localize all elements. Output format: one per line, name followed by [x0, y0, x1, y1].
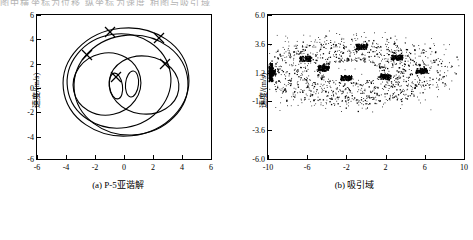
basin-point: [329, 64, 330, 65]
basin-point: [361, 88, 362, 89]
basin-point: [284, 89, 285, 90]
basin-point: [377, 87, 378, 88]
basin-point: [310, 94, 311, 95]
basin-point: [325, 108, 326, 109]
basin-point: [376, 100, 377, 101]
basin-point: [404, 95, 405, 96]
basin-point: [329, 31, 330, 32]
basin-point: [372, 62, 373, 63]
caption-a: (a) P-5亚谐解: [0, 178, 236, 191]
basin-point: [329, 101, 330, 102]
basin-point: [310, 53, 311, 54]
basin-point: [275, 66, 276, 67]
basin-point: [375, 103, 376, 104]
basin-point: [442, 82, 443, 83]
basin-point: [327, 81, 328, 82]
basin-point: [365, 103, 366, 104]
basin-point: [321, 47, 322, 48]
basin-point: [392, 95, 393, 96]
basin-point: [391, 83, 392, 84]
basin-point: [341, 60, 342, 61]
y-axis-title-a: 速度/(m/s): [30, 73, 41, 108]
basin-point: [393, 67, 394, 68]
basin-point: [424, 50, 425, 51]
basin-point: [403, 81, 404, 82]
basin-point: [324, 70, 326, 72]
basin-point: [310, 101, 311, 102]
basin-point: [439, 78, 440, 79]
basin-point: [271, 65, 272, 66]
basin-point: [382, 59, 383, 60]
basin-point: [367, 103, 368, 104]
basin-point: [423, 52, 424, 53]
basin-point: [317, 83, 318, 84]
orbit-inner-left: [67, 47, 146, 122]
basin-point: [302, 59, 303, 60]
basin-point: [328, 43, 329, 44]
basin-point: [272, 68, 274, 70]
basin-point: [283, 47, 284, 48]
basin-point: [374, 97, 375, 98]
basin-point: [302, 91, 303, 92]
basin-point: [280, 54, 281, 55]
basin-point: [395, 81, 396, 82]
basin-point: [285, 60, 286, 61]
basin-point: [294, 91, 295, 92]
basin-point: [298, 87, 299, 88]
basin-point: [391, 61, 392, 62]
basin-point: [306, 77, 307, 78]
basin-point: [404, 73, 405, 74]
y-tick-b-5: [268, 159, 272, 160]
basin-point: [382, 88, 383, 89]
basin-point: [307, 65, 308, 66]
basin-point: [387, 93, 388, 94]
basin-point: [360, 45, 361, 46]
basin-point: [301, 63, 302, 64]
basin-point: [385, 32, 386, 33]
basin-point: [328, 57, 329, 58]
basin-point: [399, 82, 400, 83]
basin-point: [419, 100, 420, 101]
basin-point: [366, 96, 367, 97]
basin-point: [294, 73, 295, 74]
y-tick-b-3: [268, 101, 272, 102]
basin-point: [373, 80, 374, 81]
basin-point: [335, 62, 336, 63]
basin-point: [353, 99, 354, 100]
basin-point: [378, 56, 379, 57]
basin-point: [425, 89, 426, 90]
basin-point: [323, 90, 324, 91]
basin-point: [321, 88, 322, 89]
basin-point: [431, 66, 432, 67]
basin-point: [331, 48, 332, 49]
basin-point: [367, 107, 368, 108]
basin-point: [380, 63, 381, 64]
basin-point: [289, 76, 290, 77]
basin-point: [323, 68, 325, 70]
basin-point: [341, 75, 343, 77]
basin-point: [444, 76, 445, 77]
basin-point: [290, 80, 291, 81]
basin-point: [285, 91, 286, 92]
basin-point: [381, 84, 382, 85]
basin-point: [375, 97, 376, 98]
basin-point: [446, 85, 447, 86]
basin-point: [318, 100, 319, 101]
basin-point: [392, 52, 393, 53]
basin-point: [326, 44, 327, 45]
basin-point: [388, 85, 389, 86]
basin-point: [396, 64, 397, 65]
basin-point: [338, 103, 339, 104]
basin-point: [441, 66, 442, 67]
basin-point: [417, 72, 419, 74]
basin-point: [449, 89, 450, 90]
basin-point: [289, 50, 290, 51]
basin-point: [334, 47, 335, 48]
basin-point: [380, 46, 381, 47]
basin-point: [287, 72, 288, 73]
basin-point: [397, 79, 398, 80]
basin-point: [331, 45, 332, 46]
basin-point: [289, 83, 290, 84]
basin-point: [315, 40, 316, 41]
basin-point: [404, 71, 405, 72]
